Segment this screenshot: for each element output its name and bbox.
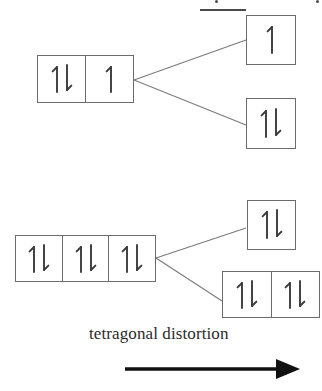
- connector-lower-fan-bottom: [156, 258, 222, 301]
- spin-pair-icon: [49, 62, 75, 96]
- orbital-cell-single-up: ↑: [86, 56, 133, 102]
- process-arrow-right: [120, 357, 305, 383]
- spin-pair-icon: [26, 242, 52, 276]
- spin-pair-icon: [73, 242, 99, 276]
- level-box-right-lower-bottom: ↑↓ ↑↓: [222, 271, 320, 318]
- orbital-cell-paired: ↑↓: [248, 201, 295, 249]
- orbital-cell-paired: ↑↓: [272, 272, 320, 317]
- arrow-head: [276, 359, 300, 379]
- connector-upper-fan-bottom: [134, 80, 246, 125]
- spin-pair-icon: [119, 242, 145, 276]
- orbital-splitting-diagram: ↑↓ ↑ ↑: [0, 0, 322, 391]
- orbital-cell-paired: ↑↓: [63, 236, 110, 281]
- cropped-top-speck-left: [215, 0, 218, 3]
- level-box-right-upper-bottom: ↑↓: [246, 98, 296, 149]
- level-box-left-upper: ↑↓ ↑: [37, 55, 134, 103]
- orbital-cell-paired: ↑↓: [223, 272, 272, 317]
- orbital-cell-paired: ↑↓: [109, 236, 155, 281]
- orbital-cell-paired: ↑↓: [38, 56, 86, 102]
- spin-pair-icon: [234, 278, 260, 312]
- connector-lower-fan-top: [156, 228, 246, 258]
- orbital-cell-paired: ↑↓: [247, 99, 295, 148]
- level-box-right-lower-top: ↑↓: [247, 200, 296, 250]
- spin-pair-icon: [259, 207, 285, 243]
- level-box-right-upper-top: ↑: [246, 15, 296, 65]
- cropped-top-artifact: [200, 9, 246, 11]
- caption-tetragonal-distortion: tetragonal distortion: [89, 324, 229, 344]
- spin-pair-icon: [258, 106, 284, 142]
- spin-up-icon: [101, 62, 119, 96]
- orbital-cell-single-up: ↑: [247, 16, 295, 64]
- connector-upper-fan-top: [134, 40, 246, 80]
- level-box-left-lower: ↑↓ ↑↓ ↑↓: [15, 235, 156, 282]
- spin-up-icon: [262, 22, 280, 58]
- orbital-cell-paired: ↑↓: [16, 236, 63, 281]
- cropped-top-speck-right: [316, 0, 319, 3]
- spin-pair-icon: [282, 278, 308, 312]
